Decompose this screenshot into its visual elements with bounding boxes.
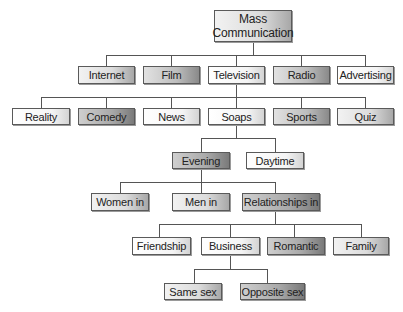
node-label: Communication	[213, 26, 294, 40]
node-label: Romantic	[274, 240, 319, 252]
node-label: Relationships in	[244, 196, 318, 208]
node-radio: Radio	[273, 66, 330, 84]
node-label: Daytime	[256, 155, 295, 167]
node-label: Radio	[288, 69, 316, 81]
node-men-in: Men in	[172, 193, 230, 211]
node-same-sex: Same sex	[164, 283, 222, 300]
node-television: Television	[208, 66, 265, 84]
node-relationships-in: Relationships in	[242, 193, 320, 211]
node-mass-communication: Mass Communication	[214, 10, 292, 42]
node-label: Sports	[286, 111, 317, 123]
node-label: Soaps	[221, 111, 251, 123]
node-label: Internet	[89, 69, 125, 81]
node-label: Same sex	[169, 286, 216, 298]
node-family: Family	[333, 237, 389, 255]
node-comedy: Comedy	[78, 108, 135, 125]
node-label: Family	[345, 240, 376, 252]
node-opposite-sex: Opposite sex	[240, 283, 305, 300]
node-business: Business	[201, 237, 260, 255]
node-film: Film	[143, 66, 200, 84]
node-women-in: Women in	[91, 193, 149, 211]
node-romantic: Romantic	[267, 237, 325, 255]
node-internet: Internet	[78, 66, 135, 84]
node-daytime: Daytime	[246, 152, 304, 169]
node-label: Reality	[25, 111, 57, 123]
node-label: Advertising	[339, 69, 391, 81]
node-friendship: Friendship	[132, 237, 191, 255]
node-label: Quiz	[355, 111, 377, 123]
node-label: Film	[162, 69, 182, 81]
node-evening: Evening	[172, 152, 230, 169]
node-label: Evening	[182, 155, 220, 167]
node-label: Men in	[185, 196, 217, 208]
node-advertising: Advertising	[337, 66, 394, 84]
node-label: Women in	[96, 196, 144, 208]
node-news: News	[143, 108, 200, 125]
node-soaps: Soaps	[208, 108, 265, 125]
node-sports: Sports	[273, 108, 330, 125]
mass-communication-tree: Mass Communication Internet Film Televis…	[0, 0, 403, 312]
node-label: Opposite sex	[242, 286, 304, 298]
node-label: Friendship	[137, 240, 186, 252]
node-label: News	[158, 111, 185, 123]
node-label: Television	[213, 69, 259, 81]
node-quiz: Quiz	[337, 108, 394, 125]
node-reality: Reality	[12, 108, 70, 125]
node-label: Business	[209, 240, 252, 252]
node-label: Mass	[239, 12, 267, 26]
node-label: Comedy	[87, 111, 127, 123]
